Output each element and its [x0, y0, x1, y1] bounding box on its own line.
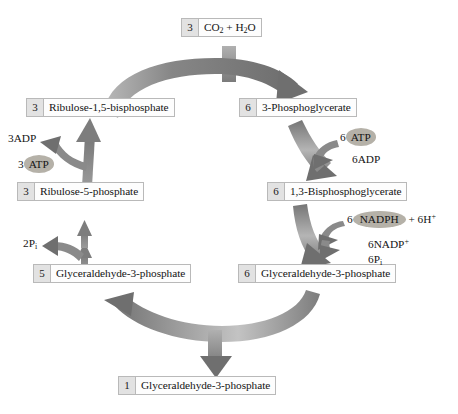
node-ribulose-1-5-bisphosphate: 3 Ribulose-1,5-bisphosphate — [26, 98, 175, 117]
cofactor-6atp: 6ATP — [340, 128, 376, 146]
node-label: CO2 + H2O — [199, 19, 261, 36]
cofactor-6adp-text: 6ADP — [352, 153, 380, 165]
node-glyceraldehyde-3-phosphate-5: 5 Glyceraldehyde-3-phosphate — [33, 264, 191, 283]
node-co2-water: 3 CO2 + H2O — [181, 18, 262, 37]
node-label: Ribulose-1,5-bisphosphate — [44, 99, 174, 116]
calvin-cycle-diagram: 3 CO2 + H2O 3 Ribulose-1,5-bisphosphate … — [0, 0, 458, 414]
cofactor-6nadp: 6NADP+ — [368, 235, 409, 251]
cofactor-6nadph: 6NADPH + 6H+ — [347, 210, 436, 228]
node-count: 6 — [239, 265, 256, 282]
node-count: 6 — [268, 183, 285, 200]
arrow-nadph-branch-right — [318, 221, 345, 261]
node-label: 3-Phosphoglycerate — [257, 99, 356, 116]
node-count: 3 — [18, 183, 35, 200]
node-count: 5 — [34, 265, 51, 282]
arrow-right-upper-arc — [288, 120, 337, 181]
cofactor-6atp-prefix: 6 — [340, 131, 346, 143]
cofactor-6nadph-prefix: 6 — [347, 213, 353, 225]
node-3-phosphoglycerate: 6 3-Phosphoglycerate — [239, 98, 357, 117]
node-count: 1 — [119, 377, 136, 394]
cofactor-6adp: 6ADP — [352, 152, 380, 166]
arrow-bottom-arc — [104, 290, 320, 378]
cofactor-3atp: 3ATP — [18, 155, 54, 173]
node-1-3-bisphosphoglycerate: 6 1,3-Bisphosphoglycerate — [267, 182, 407, 201]
node-count: 3 — [182, 19, 199, 36]
node-glyceraldehyde-3-phosphate-1: 1 Glyceraldehyde-3-phosphate — [118, 376, 276, 395]
node-ribulose-5-phosphate: 3 Ribulose-5-phosphate — [17, 182, 144, 201]
cofactor-3atp-prefix: 3 — [18, 158, 24, 170]
node-label: Glyceraldehyde-3-phosphate — [136, 377, 275, 394]
atp-pill: ATP — [24, 155, 54, 173]
arrow-2pi-branch — [42, 236, 84, 261]
cofactor-6nadph-suffix: + 6H+ — [406, 213, 436, 225]
node-label: Glyceraldehyde-3-phosphate — [51, 265, 190, 282]
cofactor-6pi: 6Pi — [368, 252, 382, 270]
atp-pill: ATP — [346, 128, 376, 146]
cofactor-3adp-text: 3ADP — [8, 132, 36, 144]
node-label: Ribulose-5-phosphate — [35, 183, 143, 200]
arrow-left-ru5p-to-rubp — [76, 118, 101, 186]
cofactor-3adp: 3ADP — [8, 131, 36, 145]
node-count: 6 — [240, 99, 257, 116]
node-label: 1,3-Bisphosphoglycerate — [285, 183, 406, 200]
cofactor-2pi: 2Pi — [23, 236, 37, 254]
nadph-pill: NADPH — [353, 211, 406, 229]
node-count: 3 — [27, 99, 44, 116]
cycle-arrow-graphics — [0, 0, 458, 414]
